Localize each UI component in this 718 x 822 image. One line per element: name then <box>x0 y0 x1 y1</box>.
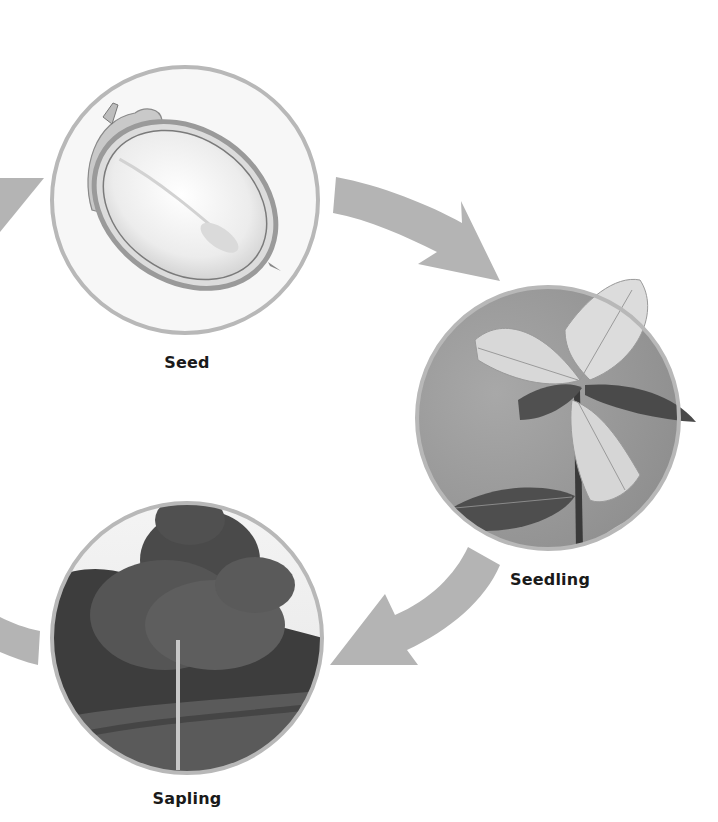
stage-label-seed: Seed <box>107 353 267 372</box>
stage-label-seedling: Seedling <box>470 570 630 589</box>
stage-seedling-image <box>415 279 696 555</box>
arrow-out-of-sapling <box>0 617 40 665</box>
arrow-seed-to-seedling <box>333 177 500 281</box>
arrow-into-seed <box>0 178 44 232</box>
arrow-seedling-to-sapling <box>330 547 500 665</box>
stage-label-sapling: Sapling <box>107 789 267 808</box>
stage-sapling-image <box>50 495 330 780</box>
diagram-canvas <box>0 0 718 822</box>
stage-seed-image <box>50 65 320 335</box>
life-cycle-diagram: Seed Seedling Sapling <box>0 0 718 822</box>
